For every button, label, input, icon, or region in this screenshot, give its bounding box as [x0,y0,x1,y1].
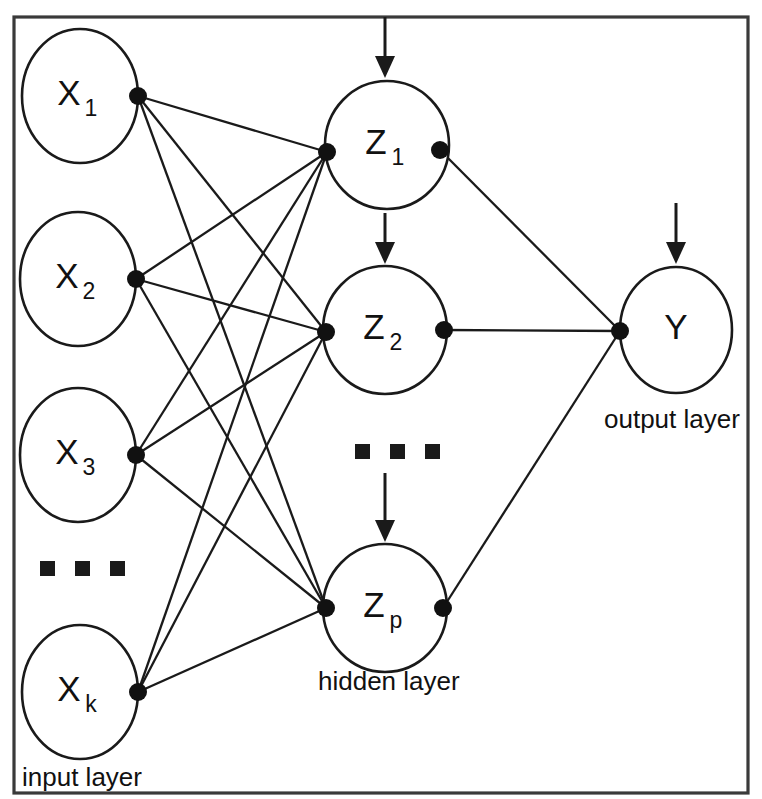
input-layer-label: input layer [22,762,142,792]
input-ellipsis-dot-3 [110,561,125,576]
node-label-x1: X [57,73,80,112]
input-ellipsis-dot-2 [75,561,90,576]
node-label-y: Y [664,307,687,346]
node-label-zp: Z [363,585,384,624]
port-dot-zp-out[interactable] [434,599,452,617]
edge-z2-y [444,330,620,331]
port-dot-z2-out[interactable] [435,321,453,339]
node-z2[interactable] [323,266,447,394]
node-sublabel-x2: 2 [83,278,96,304]
hidden-layer-label: hidden layer [318,666,460,696]
node-sublabel-x1: 1 [85,95,98,121]
node-zp[interactable] [323,544,447,672]
hidden-ellipsis-dot-2 [390,444,405,459]
node-label-xk: X [57,669,80,708]
input-ellipsis-dot-1 [40,561,55,576]
node-label-z1: Z [365,122,386,161]
port-dot-x2-out[interactable] [127,270,145,288]
neural-network-diagram: X1X2X3XkZ1Z2ZpY input layer hidden layer… [0,0,762,799]
node-sublabel-xk: k [85,691,97,717]
port-dot-x1-out[interactable] [129,87,147,105]
output-layer-label: output layer [604,404,740,434]
port-dot-z1-out[interactable] [431,141,449,159]
port-dot-y-in[interactable] [611,322,629,340]
port-dot-z1-in[interactable] [318,143,336,161]
hidden-ellipsis-dot-3 [425,444,440,459]
port-dot-z2-in[interactable] [317,323,335,341]
node-sublabel-z2: 2 [390,329,403,355]
node-label-x3: X [55,432,78,471]
node-sublabel-zp: p [390,607,403,633]
node-sublabel-x3: 3 [83,454,96,480]
port-dot-x3-out[interactable] [127,446,145,464]
node-sublabel-z1: 1 [392,144,405,170]
port-dot-zp-in[interactable] [317,599,335,617]
network-canvas: X1X2X3XkZ1Z2ZpY input layer hidden layer… [0,0,762,799]
port-dot-xk-out[interactable] [129,683,147,701]
node-z1[interactable] [325,81,449,209]
hidden-ellipsis-dot-1 [355,444,370,459]
node-label-z2: Z [363,307,384,346]
node-label-x2: X [55,256,78,295]
